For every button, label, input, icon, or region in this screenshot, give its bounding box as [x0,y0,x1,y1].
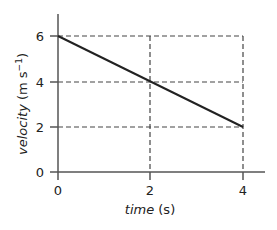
y-tick-label-0: 0 [36,165,44,180]
y-axis-label-unit-open: (m s [15,71,30,104]
grid-lines [58,36,243,172]
y-tick-label-4: 4 [36,75,44,90]
x-tick-label-2: 2 [146,183,154,198]
x-axis-label-unit: (s) [154,202,175,217]
x-axis-label: time (s) [125,202,175,217]
velocity-time-chart: 6 4 2 0 0 2 4 time (s) velocity (m s−1) [0,0,277,230]
y-axis-label: velocity (m s−1) [14,53,30,155]
y-tick-label-6: 6 [36,29,44,44]
x-tick-label-4: 4 [239,183,247,198]
y-axis-label-unit-close: ) [15,53,30,58]
y-axis-label-variable: velocity [15,104,30,155]
y-tick-label-2: 2 [36,120,44,135]
y-axis-label-unit-sup: −1 [14,58,24,71]
x-tick-label-0: 0 [54,183,62,198]
x-axis-label-variable: time [125,202,154,217]
axes [50,14,265,180]
